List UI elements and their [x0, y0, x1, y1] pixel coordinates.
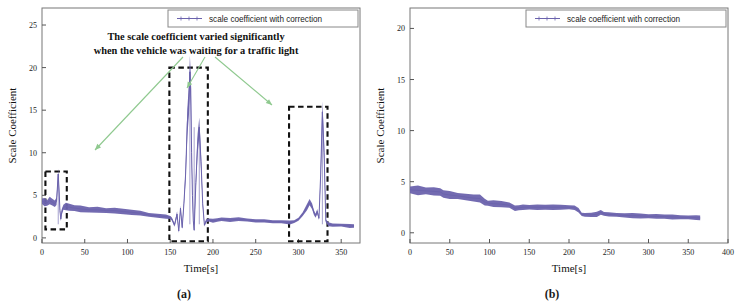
x-tick-label: 0	[408, 248, 412, 257]
y-axis-title: Scale Coefficient	[374, 88, 386, 164]
chart-annotation-line-1: The scale coefficient varied significant…	[107, 31, 285, 42]
series-band	[410, 185, 700, 220]
annotation-arrow-3	[215, 57, 272, 105]
y-tick-label: 15	[397, 76, 405, 85]
y-tick-label: 20	[397, 24, 405, 33]
y-tick-label: 5	[401, 178, 405, 187]
x-tick-label: 50	[446, 248, 454, 257]
x-axis-title: Time[s]	[552, 262, 586, 274]
y-tick-label: 10	[29, 149, 37, 158]
x-tick-label: 200	[207, 248, 219, 257]
y-tick-label: 5	[33, 191, 37, 200]
figure-container: 0501001502002503003500510152025Time[s]Sc…	[0, 0, 736, 303]
x-tick-label: 400	[722, 248, 734, 257]
chart-plot-a: 0501001502002503003500510152025Time[s]Sc…	[0, 0, 368, 283]
chart-annotation-line-2: when the vehicle was waiting for a traff…	[94, 45, 299, 56]
x-tick-label: 250	[250, 248, 262, 257]
x-tick-label: 50	[81, 248, 89, 257]
y-tick-label: 25	[29, 21, 37, 30]
panel-b-caption: (b)	[368, 287, 736, 302]
y-axis-title: Scale Coefficient	[6, 88, 18, 164]
x-tick-label: 100	[121, 248, 133, 257]
y-tick-label: 0	[401, 229, 405, 238]
x-tick-label: 350	[335, 248, 347, 257]
chart-plot-b: 05010015020025030035040005101520Time[s]S…	[368, 0, 736, 283]
chart-panel-a: 0501001502002503003500510152025Time[s]Sc…	[0, 0, 368, 303]
legend-label: scale coefficient with correction	[567, 15, 681, 24]
x-tick-label: 350	[682, 248, 694, 257]
x-tick-label: 150	[164, 248, 176, 257]
y-tick-label: 20	[29, 64, 37, 73]
x-tick-label: 150	[523, 248, 535, 257]
legend-label: scale coefficient with correction	[209, 15, 323, 24]
x-tick-label: 0	[40, 248, 44, 257]
x-tick-label: 200	[563, 248, 575, 257]
x-tick-label: 100	[484, 248, 496, 257]
y-tick-label: 0	[33, 234, 37, 243]
panel-a-caption: (a)	[0, 287, 368, 302]
y-tick-label: 10	[397, 127, 405, 136]
x-tick-label: 300	[292, 248, 304, 257]
y-tick-label: 15	[29, 106, 37, 115]
x-tick-label: 300	[643, 248, 655, 257]
chart-panel-b: 05010015020025030035040005101520Time[s]S…	[368, 0, 736, 303]
x-tick-label: 250	[603, 248, 615, 257]
x-axis-title: Time[s]	[184, 262, 218, 274]
